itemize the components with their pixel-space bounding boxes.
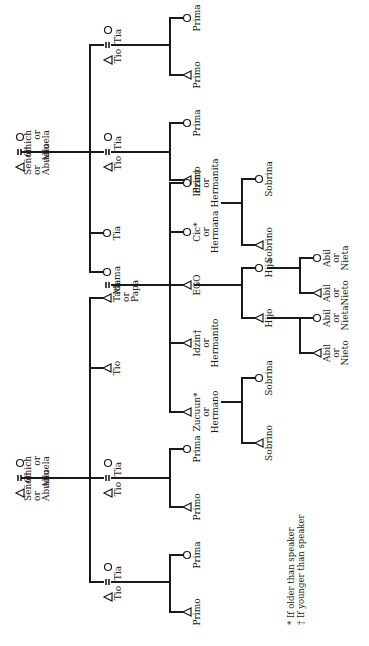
female-circle-icon bbox=[314, 315, 321, 322]
label-prima: Prima bbox=[192, 4, 202, 32]
marriage-sign-icon bbox=[106, 475, 109, 481]
male-triangle-icon bbox=[183, 71, 191, 79]
footnote-younger: † If younger than speaker bbox=[296, 514, 306, 625]
male-triangle-icon bbox=[104, 593, 112, 601]
male-triangle-icon bbox=[183, 281, 191, 289]
male-triangle-icon bbox=[103, 294, 111, 302]
label-tio: Tio bbox=[113, 156, 123, 170]
kinship-diagram-svg: ChichorAbuela SeñororAbuelo ChichorAbuel… bbox=[0, 0, 369, 646]
label-sibling-older-sister: Cic*orHermana bbox=[192, 210, 220, 253]
label-tia: Tia bbox=[113, 28, 123, 43]
label-grandfather: SeñororAbuelo bbox=[23, 143, 51, 176]
female-circle-icon bbox=[105, 134, 112, 141]
label-granddaughter: AbilorNieta bbox=[322, 245, 350, 271]
label-prima: Prima bbox=[192, 109, 202, 137]
marriage-sign-icon bbox=[106, 282, 109, 288]
male-triangle-icon bbox=[255, 241, 263, 249]
female-circle-icon bbox=[184, 180, 191, 187]
female-circle-icon bbox=[184, 552, 191, 559]
label-sibling-older-brother: Zucuun*orHermano bbox=[192, 391, 220, 434]
marriage-sign-icon bbox=[18, 149, 21, 155]
label-sibling-younger-brother: Idzin†orHermanito bbox=[192, 318, 220, 367]
male-triangle-icon bbox=[103, 364, 111, 372]
label-ego: EGO bbox=[192, 274, 202, 295]
label-sobrina: Sobrina bbox=[264, 360, 274, 396]
marriage-signs bbox=[18, 42, 109, 585]
label-tia: Tia bbox=[112, 225, 122, 240]
person-symbols bbox=[16, 15, 321, 617]
label-tio: Tio bbox=[113, 482, 123, 496]
female-circle-icon bbox=[256, 265, 263, 272]
label-sobrina: Sobrina bbox=[264, 161, 274, 197]
female-circle-icon bbox=[256, 176, 263, 183]
female-circle-icon bbox=[256, 375, 263, 382]
label-prima: Prima bbox=[192, 435, 202, 463]
label-tia: Tia bbox=[113, 461, 123, 476]
label-sibling-younger-sister: Idzin†orHermanita bbox=[192, 158, 220, 208]
label-primo: Primo bbox=[192, 61, 202, 88]
male-triangle-icon bbox=[183, 608, 191, 616]
label-tio: Tio bbox=[112, 361, 122, 375]
label-tio: Tio bbox=[113, 586, 123, 600]
female-circle-icon bbox=[105, 564, 112, 571]
male-triangle-icon bbox=[104, 489, 112, 497]
male-triangle-icon bbox=[255, 439, 263, 447]
female-circle-icon bbox=[184, 446, 191, 453]
marriage-sign-icon bbox=[18, 475, 21, 481]
male-triangle-icon bbox=[183, 339, 191, 347]
label-hija: Hija bbox=[264, 258, 274, 278]
footnote-older: * If older than speaker bbox=[286, 527, 296, 625]
marriage-sign-icon bbox=[106, 579, 109, 585]
label-hijo: Hijo bbox=[264, 309, 274, 328]
label-tia: Tia bbox=[113, 565, 123, 580]
male-triangle-icon bbox=[183, 408, 191, 416]
label-tio: Tio bbox=[113, 49, 123, 63]
female-circle-icon bbox=[184, 15, 191, 22]
label-sobrino: Sobrino bbox=[264, 425, 274, 461]
label-primo: Primo bbox=[192, 493, 202, 520]
female-circle-icon bbox=[105, 460, 112, 467]
male-triangle-icon bbox=[313, 349, 321, 357]
female-circle-icon bbox=[314, 255, 321, 262]
labels: ChichorAbuela SeñororAbuelo ChichorAbuel… bbox=[23, 4, 350, 626]
label-grandson: AbilorNieto bbox=[322, 340, 350, 365]
male-triangle-icon bbox=[255, 314, 263, 322]
female-circle-icon bbox=[105, 27, 112, 34]
label-grandfather: SeñororAbuelo bbox=[23, 469, 51, 502]
label-primo: Primo bbox=[192, 598, 202, 625]
label-grandson: AbilorNieto bbox=[322, 280, 350, 305]
label-tia: Tia bbox=[113, 135, 123, 150]
marriage-sign-icon bbox=[106, 42, 109, 48]
male-triangle-icon bbox=[183, 503, 191, 511]
male-triangle-icon bbox=[313, 289, 321, 297]
female-circle-icon bbox=[184, 120, 191, 127]
label-prima: Prima bbox=[192, 541, 202, 569]
marriage-sign-icon bbox=[106, 149, 109, 155]
kinship-diagram: ChichorAbuela SeñororAbuelo ChichorAbuel… bbox=[0, 0, 369, 646]
female-circle-icon bbox=[184, 229, 191, 236]
male-triangle-icon bbox=[104, 56, 112, 64]
label-granddaughter: AbilorNieta bbox=[322, 305, 350, 331]
label-sobrino: Sobrino bbox=[264, 227, 274, 263]
female-circle-icon bbox=[104, 269, 111, 276]
male-triangle-icon bbox=[104, 163, 112, 171]
female-circle-icon bbox=[104, 230, 111, 237]
label-father: TataorPapa bbox=[112, 279, 140, 302]
